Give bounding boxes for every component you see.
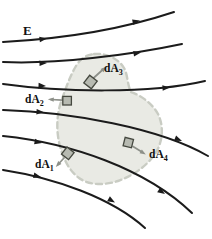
label-da2: dA2 bbox=[25, 93, 44, 108]
label-da1: dA1 bbox=[35, 158, 54, 173]
label-e: E bbox=[23, 23, 32, 38]
figure-canvas: E dA1 dA2 dA3 dA4 bbox=[0, 0, 212, 239]
field-arrowhead-icon bbox=[36, 109, 44, 115]
figure-wrap: E dA1 dA2 dA3 dA4 bbox=[0, 0, 212, 239]
area-square-da2 bbox=[63, 96, 72, 105]
label-da4-subscript: 4 bbox=[164, 154, 168, 163]
field-arrowhead-icon bbox=[33, 173, 42, 180]
label-da1-subscript: 1 bbox=[50, 164, 54, 173]
label-da2-subscript: 2 bbox=[40, 99, 44, 108]
label-da4: dA4 bbox=[149, 148, 168, 163]
area-square-da4 bbox=[123, 137, 133, 147]
label-da3-subscript: 3 bbox=[119, 68, 123, 77]
field-arrowhead-icon bbox=[162, 85, 170, 91]
normal-arrowhead-da2-icon bbox=[48, 97, 54, 102]
